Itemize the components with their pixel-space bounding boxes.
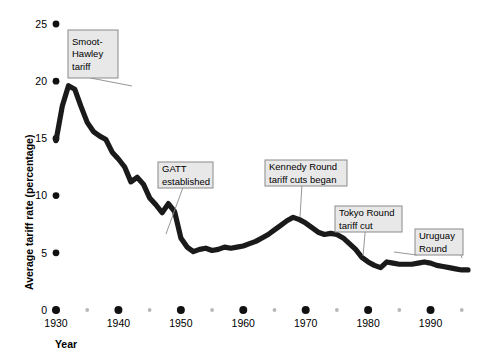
x-minor-tick-dot bbox=[210, 308, 214, 312]
callout-label: tariff bbox=[72, 61, 91, 72]
y-tick-dot bbox=[53, 249, 60, 256]
y-tick-dot bbox=[53, 21, 60, 28]
callout-label: Smoot- bbox=[72, 36, 103, 47]
x-axis-title: Year bbox=[55, 338, 77, 350]
x-minor-tick-dot bbox=[148, 308, 152, 312]
y-tick-label: 0 bbox=[41, 304, 47, 316]
y-tick-dot bbox=[53, 78, 60, 85]
callout-label: tariff cuts began bbox=[269, 174, 336, 185]
x-tick-dot bbox=[52, 306, 60, 314]
y-tick-label: 20 bbox=[35, 75, 47, 87]
x-tick-dot bbox=[427, 306, 435, 314]
x-minor-tick-dot bbox=[335, 308, 339, 312]
callout-label: Kennedy Round bbox=[269, 161, 337, 172]
x-tick-label: 1980 bbox=[356, 317, 380, 329]
y-axis-title: Average tariff rate (percentage) bbox=[23, 135, 35, 290]
x-tick-label: 1940 bbox=[107, 317, 131, 329]
x-tick-label: 1990 bbox=[419, 317, 443, 329]
x-tick-dot bbox=[302, 306, 310, 314]
y-tick-dot bbox=[53, 192, 60, 199]
y-tick-label: 10 bbox=[35, 189, 47, 201]
x-tick-label: 1950 bbox=[169, 317, 193, 329]
x-tick-label: 1930 bbox=[44, 317, 68, 329]
callout-label: established bbox=[162, 176, 210, 187]
x-minor-tick-dot bbox=[85, 308, 89, 312]
x-tick-dot bbox=[364, 306, 372, 314]
callout-label: Tokyo Round bbox=[339, 207, 394, 218]
chart-canvas: 0510152025 1930194019501960197019801990 … bbox=[0, 0, 484, 360]
x-tick-label: 1970 bbox=[294, 317, 318, 329]
x-tick-dot bbox=[114, 306, 122, 314]
y-tick-label: 25 bbox=[35, 18, 47, 30]
x-minor-tick-dot bbox=[397, 308, 401, 312]
x-minor-tick-dot bbox=[273, 308, 277, 312]
tariff-rate-chart: 0510152025 1930194019501960197019801990 … bbox=[0, 0, 484, 360]
callout-label: Uruguay bbox=[419, 230, 455, 241]
x-minor-tick-dot bbox=[460, 308, 464, 312]
callout-label: tariff cut bbox=[339, 220, 373, 231]
x-tick-dot bbox=[239, 306, 247, 314]
x-tick-label: 1960 bbox=[232, 317, 256, 329]
callout-label: GATT bbox=[162, 163, 187, 174]
y-tick-label: 15 bbox=[35, 132, 47, 144]
y-tick-label: 5 bbox=[41, 247, 47, 259]
callout-label: Hawley bbox=[72, 48, 103, 59]
x-tick-dot bbox=[177, 306, 185, 314]
callout-label: Round bbox=[419, 243, 447, 254]
